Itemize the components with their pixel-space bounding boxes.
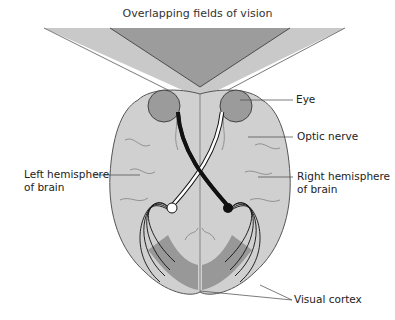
label-left-hemisphere-2: of brain xyxy=(24,181,64,194)
label-left-hemisphere-1: Left hemisphere xyxy=(24,168,109,181)
label-right-hemisphere-2: of brain xyxy=(297,183,337,196)
label-visual-cortex: Visual cortex xyxy=(294,293,362,306)
label-right-hemisphere-1: Right hemisphere xyxy=(297,170,390,183)
label-optic-nerve: Optic nerve xyxy=(297,130,358,143)
visual-pathway-diagram xyxy=(0,0,395,320)
label-eye: Eye xyxy=(296,93,315,106)
brain xyxy=(110,90,290,294)
